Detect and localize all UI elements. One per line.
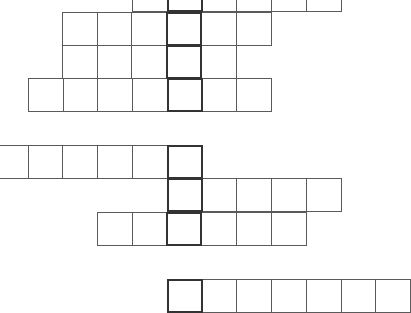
grid-cell[interactable] — [271, 0, 307, 12]
highlighted-grid-cell[interactable] — [167, 78, 203, 112]
highlighted-grid-cell[interactable] — [167, 279, 203, 313]
grid-cell[interactable] — [131, 12, 167, 46]
highlighted-grid-cell[interactable] — [166, 212, 202, 246]
grid-cell[interactable] — [201, 0, 237, 12]
grid-cell[interactable] — [201, 12, 237, 46]
grid-cell[interactable] — [202, 178, 238, 212]
grid-cell[interactable] — [202, 279, 238, 313]
grid-cell[interactable] — [132, 78, 168, 112]
grid-cell[interactable] — [63, 78, 99, 112]
grid-cell[interactable] — [97, 145, 133, 179]
grid-cell[interactable] — [62, 45, 98, 79]
grid-cell[interactable] — [132, 145, 168, 179]
grid-cell[interactable] — [306, 178, 342, 212]
grid-cell[interactable] — [28, 78, 64, 112]
grid-cell[interactable] — [375, 279, 411, 313]
grid-cell[interactable] — [306, 0, 342, 12]
grid-cell[interactable] — [202, 78, 238, 112]
grid-cell[interactable] — [0, 145, 29, 179]
grid-cell[interactable] — [271, 279, 307, 313]
grid-cell[interactable] — [236, 0, 272, 12]
grid-cell[interactable] — [97, 212, 133, 246]
grid-cell[interactable] — [236, 212, 272, 246]
grid-cell[interactable] — [271, 212, 307, 246]
grid-cell[interactable] — [201, 45, 237, 79]
highlighted-grid-cell[interactable] — [167, 145, 203, 179]
grid-cell[interactable] — [236, 12, 272, 46]
grid-cell[interactable] — [97, 45, 133, 79]
highlighted-grid-cell[interactable] — [167, 0, 203, 12]
grid-cell[interactable] — [132, 0, 168, 12]
grid-cell[interactable] — [201, 212, 237, 246]
highlighted-grid-cell[interactable] — [166, 12, 202, 46]
grid-cell[interactable] — [131, 45, 167, 79]
grid-cell[interactable] — [62, 145, 98, 179]
grid-cell[interactable] — [341, 279, 377, 313]
highlighted-grid-cell[interactable] — [166, 45, 202, 79]
grid-cell[interactable] — [236, 78, 272, 112]
grid-cell[interactable] — [132, 212, 168, 246]
grid-cell[interactable] — [236, 279, 272, 313]
grid-cell[interactable] — [97, 78, 133, 112]
grid-cell[interactable] — [28, 145, 64, 179]
grid-cell[interactable] — [306, 279, 342, 313]
highlighted-grid-cell[interactable] — [167, 178, 203, 212]
grid-cell[interactable] — [62, 12, 98, 46]
grid-cell[interactable] — [271, 178, 307, 212]
grid-cell[interactable] — [236, 178, 272, 212]
grid-cell[interactable] — [97, 12, 133, 46]
